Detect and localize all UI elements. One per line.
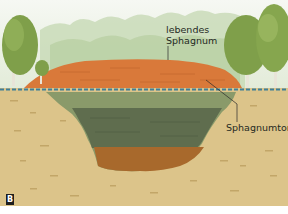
panel-letter-badge: B	[6, 194, 14, 205]
label-line-1: lebendes	[166, 24, 217, 35]
peat-middle	[72, 108, 222, 148]
label-sphagnum-peat: Sphagnumtorf	[226, 122, 288, 133]
bog-cross-section-diagram: lebendes Sphagnum Sphagnumtorf B	[0, 0, 288, 214]
label-living-sphagnum: lebendes Sphagnum	[166, 24, 217, 46]
illustration	[0, 0, 288, 214]
label-line-2: Sphagnum	[166, 35, 217, 46]
